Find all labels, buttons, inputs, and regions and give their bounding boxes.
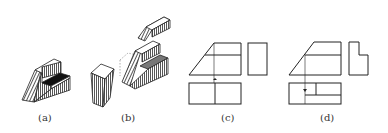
panel-a-label: (a) xyxy=(38,112,52,123)
panel-d-views xyxy=(289,42,368,104)
front-view xyxy=(189,43,241,75)
panel-b-exploded xyxy=(91,17,170,107)
front-view xyxy=(289,42,341,75)
panel-c-views xyxy=(189,43,267,104)
top-view xyxy=(289,83,341,104)
panel-d-label: (d) xyxy=(320,112,334,123)
side-view xyxy=(248,43,267,75)
panel-c-label: (c) xyxy=(221,112,234,123)
panel-a-isometric xyxy=(22,59,70,102)
panel-b-label: (b) xyxy=(121,112,135,123)
side-view xyxy=(349,42,368,75)
